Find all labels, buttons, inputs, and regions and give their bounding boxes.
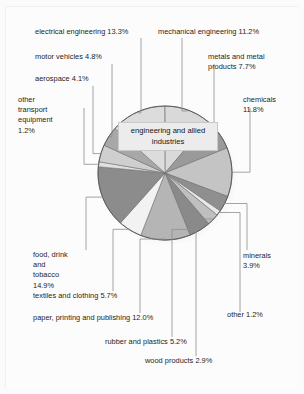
label-textiles: textiles and clothing 5.7% [33, 291, 117, 301]
label-aerospace: aerospace 4.1% [35, 74, 89, 84]
label-electrical-engineering: electrical engineering 13.3% [35, 27, 128, 37]
label-food-drink: food, drink and tobacco 14.9% [33, 250, 68, 291]
label-metals-products: metals and metal products 7.7% [208, 52, 265, 72]
label-rubber-plastics: rubber and plastics 5.2% [105, 337, 187, 347]
center-label: engineering and allied industries [118, 122, 218, 151]
leader-line [196, 219, 212, 356]
label-other: other 1.2% [227, 310, 263, 320]
label-chemicals: chemicals 11.8% [243, 95, 276, 115]
pie-chart-figure: engineering and allied industries electr… [0, 0, 304, 394]
leader-line [86, 197, 104, 250]
leader-line [113, 229, 131, 291]
leader-line [182, 38, 188, 111]
label-mechanical-engineering: mechanical engineering 11.2% [158, 27, 259, 37]
leader-line [218, 213, 240, 313]
label-paper-printing: paper, printing and publishing 12.0% [33, 313, 153, 323]
leader-line [110, 64, 112, 137]
leader-line [84, 108, 100, 164]
leader-line [138, 38, 141, 113]
leader-line [140, 239, 165, 313]
label-motor-vehicles: motor vehicles 4.8% [35, 52, 102, 62]
leader-line [93, 86, 102, 154]
label-minerals: minerals 3.9% [243, 251, 271, 271]
label-wood-products: wood products 2.9% [145, 356, 212, 366]
label-other-transport: other transport equipment 1.2% [18, 95, 53, 136]
